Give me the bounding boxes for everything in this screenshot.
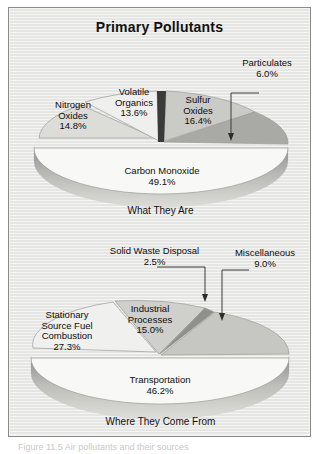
pie-label-particulates: Particulates 6.0% [227,58,307,79]
pie-stage-bottom: Solid Waste Disposal 2.5% Miscellaneous … [9,230,311,437]
caption-what-they-are: What They Are [9,205,311,216]
pie-stage-top: Carbon Monoxide 49.1% Nitrogen Oxides 14… [9,38,311,228]
caption-where-they-come-from: Where They Come From [9,416,311,427]
figure-frame: Primary Pollutants [8,7,311,437]
chart-primary-pollutants-what: Carbon Monoxide 49.1% Nitrogen Oxides 14… [9,38,311,228]
pie-label-miscellaneous: Miscellaneous 9.0% [223,248,307,269]
figure-caption: Figure 11.5 Air pollutants and their sou… [18,442,308,454]
page-title: Primary Pollutants [9,19,310,35]
chart-primary-pollutants-where: Solid Waste Disposal 2.5% Miscellaneous … [9,230,311,437]
callout-arrow-solid-waste-icon [202,294,208,302]
pie-label-solid-waste-disposal: Solid Waste Disposal 2.5% [92,246,217,267]
